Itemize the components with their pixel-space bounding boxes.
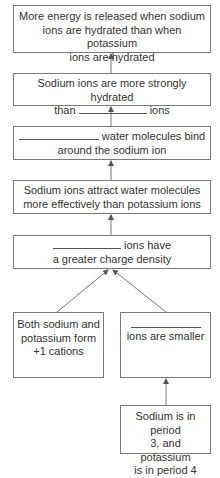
- box-text-line: Sodium ions attract water molecules: [17, 184, 207, 198]
- box-energy-released: More energy is released when sodium ions…: [13, 5, 211, 53]
- box-more-strongly-hydrated: Sodium ions are more strongly hydrated t…: [13, 73, 211, 106]
- box-text-line: +1 cations: [17, 345, 100, 359]
- box-periods: Sodium is in period 3, and potassium is …: [120, 405, 211, 454]
- box-text-line: water molecules bind: [17, 130, 207, 144]
- box-text-line: ions are hydrated than when potassium: [17, 24, 207, 51]
- box-ions-smaller: ions are smaller: [120, 312, 211, 378]
- arrow-b7-to-b5: [113, 270, 166, 312]
- box-text-line: [124, 318, 207, 330]
- box-text-line: More energy is released when sodium: [17, 10, 207, 24]
- fill-in-blank[interactable]: [131, 318, 201, 328]
- box-charge-density: ions have a greater charge density: [13, 235, 211, 269]
- box-text-line: more effectively than potassium ions: [17, 198, 207, 212]
- box-text-line: 3, and potassium: [124, 437, 207, 464]
- box-text-line: than ions: [17, 104, 207, 118]
- box-text-line: is in period 4: [124, 464, 207, 478]
- box-water-molecules-bind: water molecules bind around the sodium i…: [13, 126, 211, 160]
- box-text-line: ions are hydrated: [17, 51, 207, 65]
- box-text-line: ions are smaller: [124, 330, 207, 344]
- fill-in-blank[interactable]: [19, 130, 99, 140]
- fill-in-blank[interactable]: [53, 239, 121, 249]
- fill-in-blank[interactable]: [79, 104, 147, 114]
- box-text-line: around the sodium ion: [17, 144, 207, 158]
- box-text-line: ions have: [17, 239, 207, 253]
- box-text-line: Sodium ions are more strongly hydrated: [17, 77, 207, 104]
- box-text-line: a greater charge density: [17, 253, 207, 267]
- box-text-line: Sodium is in period: [124, 410, 207, 437]
- box-text-line: Both sodium and: [17, 318, 100, 332]
- box-plus-one-cations: Both sodium and potassium form +1 cation…: [13, 312, 104, 378]
- box-text-line: potassium form: [17, 332, 100, 346]
- box-attract-water: Sodium ions attract water molecules more…: [13, 180, 211, 214]
- arrow-b6-to-b5: [57, 270, 108, 312]
